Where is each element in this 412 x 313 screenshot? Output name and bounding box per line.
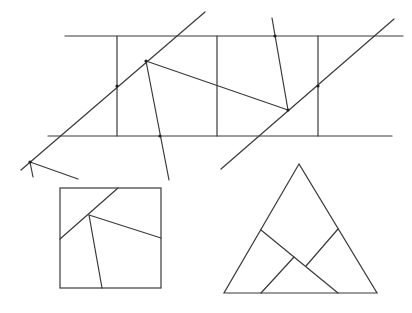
rectangle-strip: [21, 12, 403, 180]
square-figure: [60, 188, 161, 288]
vertex-dot: [316, 84, 319, 87]
triangle-cut-line: [306, 229, 338, 266]
square-cut-line: [60, 188, 118, 239]
triangle-cut-line: [261, 257, 294, 293]
strip-cut-line: [272, 18, 288, 110]
strip-cut-line: [30, 162, 33, 177]
square-outline: [60, 188, 161, 288]
strip-diagonal-line: [221, 19, 394, 169]
vertex-dot: [115, 84, 118, 87]
triangle-cut-line: [261, 230, 338, 293]
dissection-diagram: [0, 0, 412, 313]
strip-cut-line: [146, 61, 169, 180]
square-cut-line: [89, 215, 102, 288]
triangle-outline: [224, 164, 377, 293]
triangle-figure: [224, 164, 377, 293]
square-cut-line: [89, 215, 161, 238]
vertex-dot: [286, 108, 289, 111]
vertex-dot: [273, 34, 276, 37]
strip-cut-line: [30, 162, 78, 179]
vertex-dot: [28, 160, 31, 163]
vertex-dot: [158, 134, 161, 137]
vertex-dot: [144, 59, 147, 62]
